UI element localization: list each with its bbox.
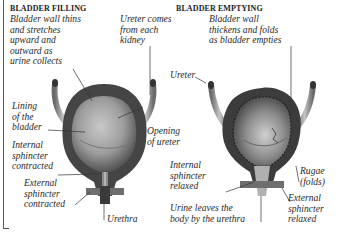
label-urethra: Urethra: [107, 214, 138, 225]
bladder-filling-figure: [52, 79, 156, 205]
label-internal-sphincter-contracted: Internal sphincter contracted: [12, 140, 53, 172]
label-ureter: Ureter: [170, 70, 195, 81]
label-opening-ureter: Opening of ureter: [147, 126, 180, 147]
label-urine-leaves: Urine leaves the body by the urethra: [170, 203, 245, 224]
label-wall-thins: Bladder wall thins and stretches upward …: [10, 14, 81, 67]
label-external-sphincter-contracted: External sphincter contracted: [24, 178, 65, 210]
label-lining: Lining of the bladder: [12, 101, 42, 133]
label-internal-sphincter-relaxed: Internal sphincter relaxed: [170, 160, 206, 192]
heading-bladder-filling: BLADDER FILLING: [10, 4, 86, 13]
label-rugae: Rugae (folds): [300, 166, 325, 187]
label-ureter-from-kidney: Ureter comes from each kidney: [120, 14, 172, 46]
heading-bladder-emptying: BLADDER EMPTYING: [176, 4, 263, 13]
label-wall-thickens: Bladder wall thickens and folds as bladd…: [209, 14, 281, 46]
label-external-sphincter-relaxed: External sphincter relaxed: [288, 193, 324, 225]
